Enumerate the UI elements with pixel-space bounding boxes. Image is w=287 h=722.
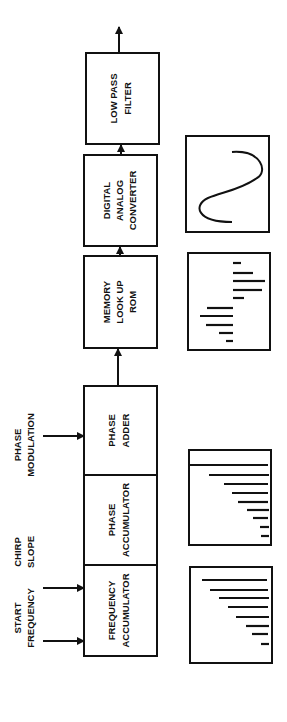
phase-ramp-waveform <box>189 450 271 545</box>
sine-output-waveform <box>186 136 269 232</box>
phase-adder-block: PHASE ADDER <box>84 386 157 475</box>
memory-rom-block: MEMORY LOOK UP ROM <box>84 256 157 348</box>
svg-text:FREQUENCY: FREQUENCY <box>106 580 117 640</box>
chirp-slope-label: CHIRP SLOPE <box>12 536 36 568</box>
svg-text:FREQUENCY: FREQUENCY <box>25 588 36 648</box>
svg-text:MODULATION: MODULATION <box>25 413 36 477</box>
svg-text:LOOK UP: LOOK UP <box>114 280 125 324</box>
frequency-accumulator-block: FREQUENCY ACCUMULATOR <box>84 565 157 656</box>
svg-text:LOW PASS: LOW PASS <box>108 74 119 124</box>
svg-text:MEMORY: MEMORY <box>101 280 112 323</box>
dds-block-diagram: START FREQUENCY CHIRP SLOPE PHASE MODULA… <box>0 0 287 722</box>
svg-text:ACCUMULATOR: ACCUMULATOR <box>120 573 131 647</box>
svg-text:DIGITAL: DIGITAL <box>101 182 112 219</box>
svg-text:PHASE: PHASE <box>106 504 117 537</box>
svg-text:FILTER: FILTER <box>122 82 133 115</box>
svg-text:ROM: ROM <box>127 291 138 313</box>
start-frequency-label: START FREQUENCY <box>12 588 36 648</box>
frequency-ramp-waveform <box>190 567 272 663</box>
svg-text:START: START <box>12 602 23 633</box>
phase-modulation-label: PHASE MODULATION <box>12 413 36 477</box>
rom-samples-waveform <box>188 253 270 350</box>
svg-text:PHASE: PHASE <box>12 429 23 462</box>
svg-text:ANALOG: ANALOG <box>114 180 125 221</box>
dac-block: DIGITAL ANALOG CONVERTER <box>84 155 157 246</box>
svg-text:ADDER: ADDER <box>120 413 131 447</box>
svg-text:SLOPE: SLOPE <box>25 536 36 568</box>
svg-text:CONVERTER: CONVERTER <box>127 171 138 231</box>
phase-accumulator-block: PHASE ACCUMULATOR <box>84 475 157 565</box>
low-pass-filter-block: LOW PASS FILTER <box>86 53 159 144</box>
svg-text:CHIRP: CHIRP <box>12 537 23 567</box>
svg-text:ACCUMULATOR: ACCUMULATOR <box>120 483 131 557</box>
svg-text:PHASE: PHASE <box>106 414 117 447</box>
